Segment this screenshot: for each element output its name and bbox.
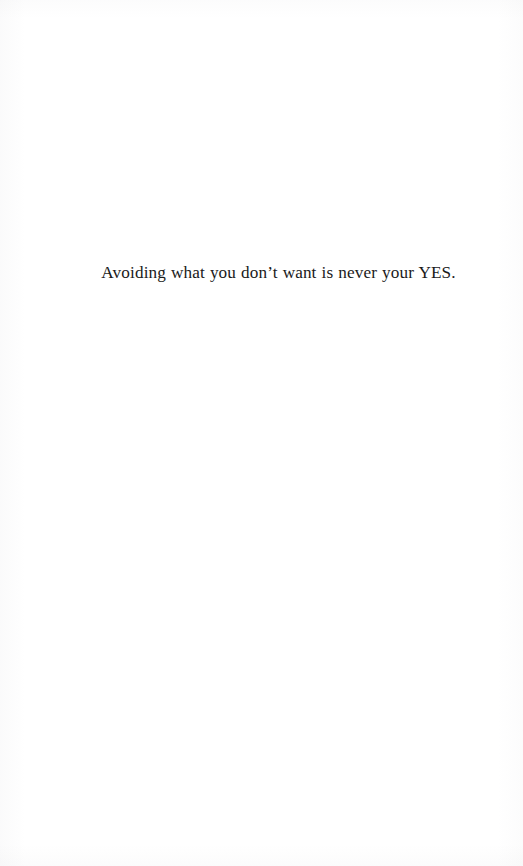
- book-page: Avoiding what you don’t want is never yo…: [0, 0, 523, 866]
- epigraph-block: Avoiding what you don’t want is never yo…: [0, 262, 523, 283]
- scan-edge-bottom: [0, 844, 523, 866]
- scan-edge-left: [0, 0, 26, 866]
- epigraph-text: Avoiding what you don’t want is never yo…: [101, 262, 455, 283]
- scan-edge-top: [0, 0, 523, 18]
- scan-edge-right: [497, 0, 523, 866]
